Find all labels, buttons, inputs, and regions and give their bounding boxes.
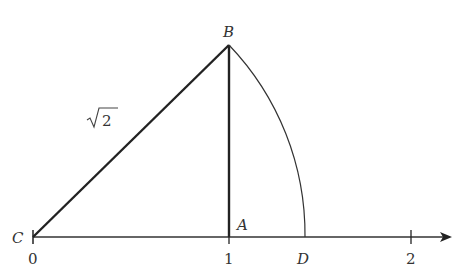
hypotenuse-length-label: 2: [87, 108, 118, 130]
label-A: A: [235, 216, 248, 234]
segment-CB: [33, 45, 229, 237]
label-D: D: [296, 250, 309, 268]
arc-BD: [229, 45, 305, 237]
radicand: 2: [102, 112, 112, 130]
label-C: C: [12, 229, 24, 247]
tick-label-1: 1: [224, 250, 234, 268]
sqrt2-construction-diagram: C B A D 0 1 2 2: [0, 0, 456, 272]
tick-label-0: 0: [28, 250, 38, 268]
label-B: B: [222, 23, 234, 41]
tick-label-2: 2: [406, 250, 416, 268]
